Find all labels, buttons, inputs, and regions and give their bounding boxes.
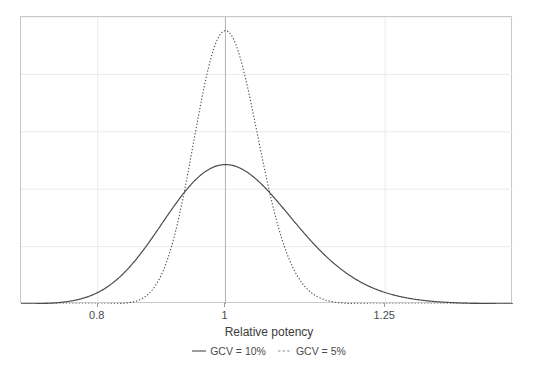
x-tick-label-0: 0.8	[89, 309, 104, 321]
legend-key-solid-icon	[192, 346, 206, 356]
legend-entry-gcv-5: GCV = 5%	[278, 346, 346, 357]
legend-label-gcv-5: GCV = 5%	[296, 346, 346, 357]
plot-canvas	[21, 17, 513, 304]
legend-key-dotted-icon	[278, 346, 292, 356]
curve-gcv-5	[21, 31, 513, 304]
x-tick-mark-0	[97, 303, 98, 307]
x-tick-label-2: 1.25	[373, 309, 394, 321]
gridlines	[21, 17, 513, 304]
chart-legend: GCV = 10% GCV = 5%	[0, 346, 538, 357]
x-tick-mark-1	[224, 303, 225, 307]
x-tick-label-1: 1	[221, 309, 227, 321]
density-curves	[21, 31, 513, 304]
x-axis-title: Relative potency	[0, 325, 538, 339]
relative-potency-chart: 0.811.25 Relative potency GCV = 10% GCV …	[0, 0, 538, 373]
x-tick-mark-2	[384, 303, 385, 307]
legend-label-gcv-10: GCV = 10%	[210, 346, 266, 357]
plot-area	[20, 16, 512, 303]
curve-gcv-10	[21, 165, 513, 304]
legend-entry-gcv-10: GCV = 10%	[192, 346, 266, 357]
